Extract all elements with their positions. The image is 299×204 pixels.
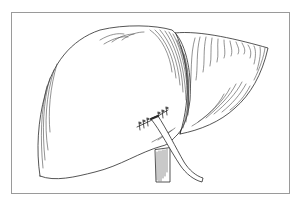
liver-illustration <box>0 0 299 204</box>
vessel <box>155 148 170 182</box>
